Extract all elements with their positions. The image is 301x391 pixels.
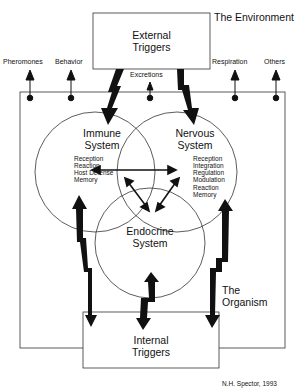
environment-label: The Environment [214, 12, 294, 24]
nervous-function: Reaction [193, 184, 225, 191]
internal-triggers-line1: Internal [83, 335, 219, 347]
internal-triggers-line2: Triggers [83, 347, 219, 359]
endocrine-system-title: Endocrine System [115, 226, 185, 249]
immune-line1: Immune [70, 128, 134, 140]
output-respiration: Respiration [212, 58, 247, 66]
nervous-function: Memory [193, 191, 225, 198]
immune-function: Host Defense [74, 169, 113, 176]
lightning-arrow-internal-nervous [205, 199, 233, 328]
immune-system-title: Immune System [70, 128, 134, 151]
nervous-function: Reception [193, 155, 225, 162]
lightning-arrow-internal-immune [72, 195, 97, 327]
immune-function: Reception [74, 155, 113, 162]
external-triggers-line2: Triggers [93, 42, 210, 54]
credit-label: N.H. Spector, 1993 [222, 380, 277, 387]
nervous-function: Modulation [193, 176, 225, 183]
lightning-arrow-external-immune [101, 69, 124, 125]
internal-triggers-label: Internal Triggers [83, 335, 219, 358]
organism-label-text: The Organism [222, 284, 272, 308]
double-arrow-immune-endocrine [125, 178, 149, 211]
external-triggers-label: External Triggers [93, 30, 210, 53]
diagram-canvas [0, 0, 301, 391]
organism-label: The Organism [222, 284, 272, 308]
output-excretions: Excretions [130, 71, 163, 79]
external-triggers-line1: External [93, 30, 210, 42]
immune-function: Memory [74, 176, 113, 183]
immune-line2: System [70, 140, 134, 152]
nervous-functions: Reception Integration Regulation Modulat… [193, 155, 225, 198]
nervous-function: Regulation [193, 169, 225, 176]
lightning-arrow-external-nervous [177, 69, 199, 125]
nervous-line2: System [163, 140, 227, 152]
output-others: Others [264, 58, 285, 66]
organism-box [20, 92, 285, 348]
immune-functions: Reception Reaction Host Defense Memory [74, 155, 113, 184]
endocrine-line2: System [115, 238, 185, 250]
immune-function: Reaction [74, 162, 113, 169]
nervous-line1: Nervous [163, 128, 227, 140]
nervous-function: Integration [193, 162, 225, 169]
output-behavior: Behavior [55, 58, 83, 66]
nervous-system-title: Nervous System [163, 128, 227, 151]
endocrine-line1: Endocrine [115, 226, 185, 238]
output-pheromones: Pheromones [3, 58, 43, 66]
